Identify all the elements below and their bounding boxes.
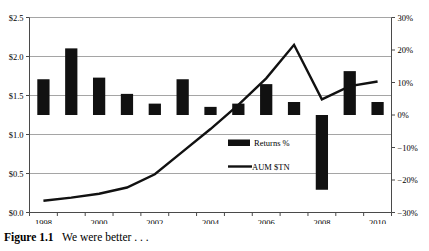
y-axis-left-tick-label: $1.0 — [9, 130, 24, 140]
figure-caption-number: Figure 1.1 — [4, 231, 54, 243]
bar — [344, 71, 356, 115]
bar — [37, 79, 49, 115]
y-axis-left-tick-label: $0.5 — [9, 169, 24, 179]
y-axis-right-tick-label: 30% — [398, 13, 414, 23]
y-axis-left-tick-label: $2.5 — [9, 13, 24, 23]
bar — [371, 102, 383, 115]
figure-caption-text: We were better . . . — [62, 231, 149, 243]
bar — [316, 115, 328, 190]
chart-plot-area: $0.0$0.5$1.0$1.5$2.0$2.5 −30%−20%−10%0%1… — [0, 0, 429, 224]
bar — [260, 84, 272, 115]
x-axis-tick-label: 2002 — [146, 218, 163, 224]
y-axis-right-tick-label: −20% — [398, 175, 418, 185]
bar — [204, 107, 216, 115]
bar — [93, 78, 105, 115]
bar — [177, 79, 189, 115]
x-axis-tick-label: 2004 — [202, 218, 220, 224]
legend-swatch-returns — [228, 140, 250, 147]
figure-caption: Figure 1.1 We were better . . . — [4, 229, 429, 245]
y-axis-left-tick-label: $2.0 — [9, 52, 24, 62]
figure-container: $0.0$0.5$1.0$1.5$2.0$2.5 −30%−20%−10%0%1… — [0, 0, 429, 251]
y-axis-right-tick-label: 0% — [398, 110, 409, 120]
x-axis-tick-label: 2008 — [313, 218, 330, 224]
y-axis-right-tick-label: −10% — [398, 143, 418, 153]
y-axis-left-tick-label: $1.5 — [9, 91, 24, 101]
x-axis-tick-label: 1998 — [35, 218, 52, 224]
y-axis-right-tick-label: −30% — [398, 208, 418, 218]
y-axis-right-tick-label: 20% — [398, 45, 414, 55]
bar — [149, 104, 161, 115]
legend-label-returns: Returns % — [254, 138, 290, 148]
bar — [65, 48, 77, 115]
y-axis-left-tick-label: $0.0 — [9, 208, 24, 218]
x-axis-tick-label: 2010 — [369, 218, 386, 224]
combo-chart: $0.0$0.5$1.0$1.5$2.0$2.5 −30%−20%−10%0%1… — [0, 0, 429, 224]
y-axis-right-tick-label: 10% — [398, 78, 414, 88]
x-axis-tick-label: 2000 — [91, 218, 108, 224]
bar — [121, 94, 133, 115]
x-axis-tick-label: 2006 — [258, 218, 275, 224]
bar — [288, 102, 300, 115]
legend-label-aum: AUM $TN — [252, 162, 290, 172]
